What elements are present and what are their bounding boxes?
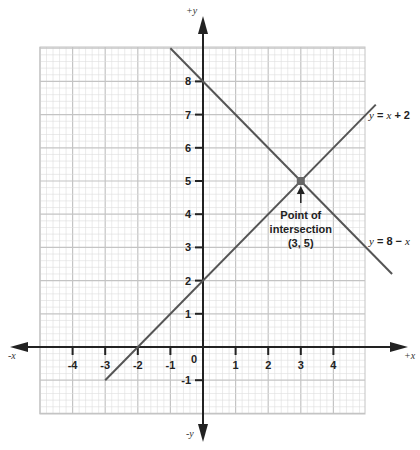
x-tick-label: -3: [100, 359, 110, 371]
y-axis-down-arrow-icon: [198, 424, 208, 442]
annotation-text: intersection: [270, 223, 333, 235]
equation-label-8-minus-x: y = 8 − x: [368, 235, 410, 247]
x-tick-label: -2: [133, 359, 143, 371]
y-tick-label: -1: [181, 374, 191, 386]
intersection-point-marker: [297, 177, 305, 185]
y-tick-label: 1: [185, 308, 191, 320]
x-tick-label: 3: [298, 359, 304, 371]
y-tick-label: 7: [185, 109, 191, 121]
coordinate-plane-chart: +x-x+y-y-4-3-2-101234-112345678y = x + 2…: [0, 0, 420, 450]
x-tick-label: 1: [233, 359, 239, 371]
y-tick-label: 2: [185, 275, 191, 287]
y-axis-label-positive: +y: [186, 5, 198, 16]
x-tick-label: 4: [330, 359, 337, 371]
annotation-arrow-head-icon: [297, 186, 305, 194]
annotation-text: (3, 5): [288, 237, 314, 249]
y-axis-label-negative: -y: [186, 428, 194, 439]
y-tick-label: 4: [185, 208, 192, 220]
x-tick-label: -1: [166, 359, 176, 371]
x-axis-label-negative: -x: [8, 350, 16, 361]
series-line: [105, 105, 376, 381]
x-axis-label-positive: +x: [404, 350, 416, 361]
y-tick-label: 6: [185, 142, 191, 154]
x-tick-label: -4: [68, 359, 79, 371]
x-tick-label: 0: [191, 353, 197, 365]
x-tick-label: 2: [265, 359, 271, 371]
y-tick-label: 3: [185, 241, 191, 253]
y-axis-up-arrow-icon: [198, 16, 208, 34]
annotation-text: Point of: [280, 209, 321, 221]
y-tick-label: 5: [185, 175, 191, 187]
equation-label-x-plus-2: y = x + 2: [368, 109, 410, 121]
y-tick-label: 8: [185, 75, 191, 87]
axes: +x-x+y-y-4-3-2-101234-112345678: [8, 5, 416, 442]
